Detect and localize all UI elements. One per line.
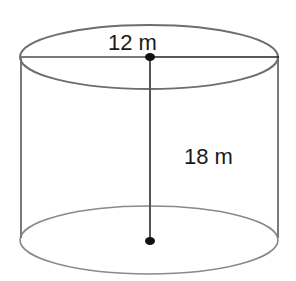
bottom-center-point — [145, 237, 155, 245]
diameter-label: 12 m — [108, 30, 157, 55]
height-label: 18 m — [184, 144, 233, 169]
cylinder-diagram: 12 m 18 m — [0, 0, 296, 281]
